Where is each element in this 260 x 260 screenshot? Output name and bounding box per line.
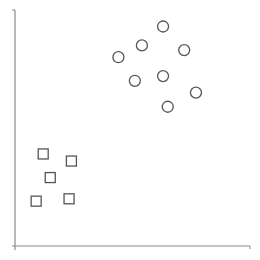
circle-marker	[158, 21, 169, 32]
square-marker	[66, 156, 76, 166]
circle-marker	[136, 40, 147, 51]
circle-marker	[162, 101, 173, 112]
scatter-chart	[0, 0, 260, 260]
circle-marker	[190, 87, 201, 98]
square-marker	[31, 196, 41, 206]
plot-area	[0, 0, 260, 260]
circle-marker	[179, 45, 190, 56]
square-marker	[64, 194, 74, 204]
square-marker	[38, 149, 48, 159]
circle-marker	[129, 75, 140, 86]
series-circles	[113, 21, 202, 112]
circle-marker	[113, 52, 124, 63]
series-squares	[31, 149, 76, 206]
square-marker	[45, 173, 55, 183]
circle-marker	[158, 71, 169, 82]
axes	[12, 10, 250, 250]
